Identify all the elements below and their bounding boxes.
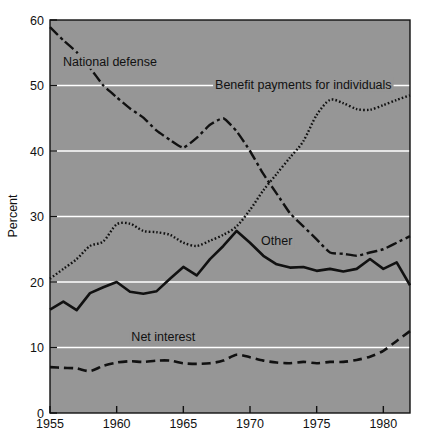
- y-tick-label: 40: [30, 145, 44, 159]
- series-label-benefit-payments-for-individuals: Benefit payments for individuals: [215, 78, 391, 92]
- x-tick-label: 1980: [369, 417, 397, 431]
- y-tick-label: 60: [30, 14, 44, 28]
- y-tick-label: 50: [30, 79, 44, 93]
- x-tick-label: 1960: [103, 417, 131, 431]
- y-tick-label: 10: [30, 341, 44, 355]
- line-chart: 195519601965197019751980 0102030405060 N…: [0, 0, 424, 445]
- chart-figure: 195519601965197019751980 0102030405060 N…: [0, 0, 424, 445]
- y-tick-label: 0: [37, 407, 44, 421]
- series-label-net-interest: Net interest: [131, 330, 195, 344]
- y-axis-tick-labels: 0102030405060: [30, 14, 44, 421]
- x-tick-label: 1970: [236, 417, 264, 431]
- series-label-other: Other: [261, 234, 292, 248]
- y-tick-label: 20: [30, 276, 44, 290]
- series-label-national-defense: National defense: [63, 55, 157, 69]
- x-axis-tick-labels: 195519601965197019751980: [36, 417, 397, 431]
- y-tick-label: 30: [30, 210, 44, 224]
- x-tick-label: 1975: [303, 417, 331, 431]
- y-axis-title: Percent: [6, 194, 20, 238]
- x-tick-label: 1965: [169, 417, 197, 431]
